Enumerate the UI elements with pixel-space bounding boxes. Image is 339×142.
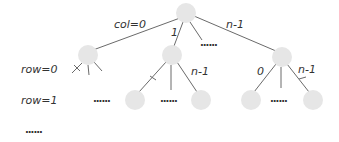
edge-left-right [94, 62, 102, 71]
node-root [176, 3, 196, 23]
edge-label-col1: 1 [171, 27, 178, 38]
edge-label-right-right: n-1 [298, 64, 316, 75]
ellipsis-root: ...... [200, 38, 217, 48]
row-label-0: row=0 [21, 64, 57, 75]
node-level1-col1 [162, 45, 182, 65]
node-level2-b [191, 90, 211, 110]
recursion-tree-diagram: row=0 row=1 ...... col=0 1 ...... n-1 n-… [0, 0, 339, 142]
row-ellipsis: ...... [25, 125, 42, 135]
node-level2-a [125, 90, 145, 110]
edge-label-colN: n-1 [226, 19, 244, 30]
edge-label-right-left: 0 [257, 66, 264, 77]
node-level2-d [303, 90, 323, 110]
edge-label-mid-right: n-1 [191, 66, 209, 77]
edge-label-col0: col=0 [114, 19, 146, 30]
row-label-1: row=1 [21, 95, 57, 106]
ellipsis-level2-left: ...... [93, 94, 110, 104]
node-level1-col0 [78, 45, 98, 65]
ellipsis-level2-right: ...... [270, 94, 287, 104]
ellipsis-level2-mid: ...... [160, 94, 177, 104]
prune-mark [299, 77, 306, 79]
node-level1-colN [272, 47, 292, 67]
node-level2-c [241, 90, 261, 110]
edge-mid-left [139, 62, 166, 92]
edge-left-mid [88, 65, 89, 75]
